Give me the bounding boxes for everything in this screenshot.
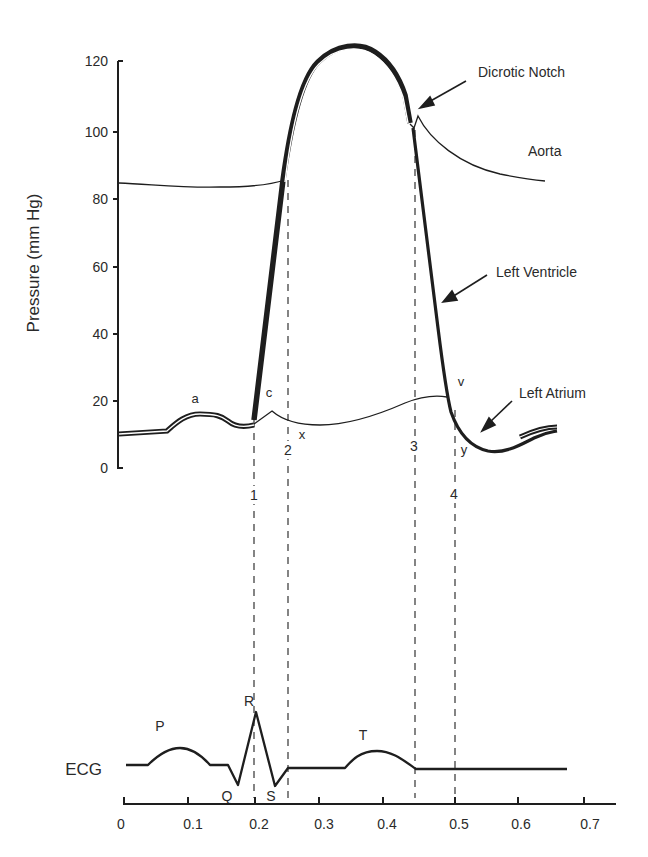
x-tick-labels: 0 0.1 0.2 0.3 0.4 0.5 0.6 0.7 bbox=[117, 816, 600, 832]
y-tick-80: 80 bbox=[92, 191, 108, 207]
aorta-curve-diastole bbox=[410, 116, 545, 181]
ecg-label-r: R bbox=[244, 693, 254, 709]
arrow-left-atrium-icon bbox=[482, 401, 512, 431]
x-axis bbox=[123, 797, 616, 804]
x-tick-0.4: 0.4 bbox=[377, 816, 397, 832]
arrow-left-ventricle-icon bbox=[443, 275, 487, 302]
y-tick-labels: 120 100 80 60 40 20 0 bbox=[85, 53, 109, 476]
left-atrium-curve bbox=[254, 396, 447, 425]
annotation-aorta: Aorta bbox=[528, 143, 562, 159]
aorta-curve-diastole-early bbox=[119, 180, 285, 187]
annotations: Dicrotic Notch Aorta Left Ventricle Left… bbox=[478, 64, 586, 401]
y-tick-60: 60 bbox=[92, 259, 108, 275]
y-tick-0: 0 bbox=[100, 460, 108, 476]
annotation-dicrotic-notch: Dicrotic Notch bbox=[478, 64, 565, 80]
ecg-label-s: S bbox=[266, 788, 275, 804]
x-tick-0: 0 bbox=[117, 816, 125, 832]
marker-label-backgrounds bbox=[247, 437, 462, 504]
wave-label-c: c bbox=[266, 385, 273, 400]
y-tick-20: 20 bbox=[92, 393, 108, 409]
wave-label-x: x bbox=[299, 427, 306, 442]
x-tick-0.6: 0.6 bbox=[511, 816, 531, 832]
arrow-dicrotic-notch-icon bbox=[420, 81, 466, 108]
annotation-left-ventricle: Left Ventricle bbox=[496, 264, 577, 280]
y-tick-100: 100 bbox=[85, 124, 109, 140]
x-tick-0.2: 0.2 bbox=[249, 816, 269, 832]
wave-label-v: v bbox=[458, 374, 465, 389]
ecg-label-p: P bbox=[155, 718, 164, 734]
cardiac-cycle-chart: 120 100 80 60 40 20 0 Pressure (mm Hg) 1… bbox=[0, 0, 648, 857]
lv-relaxation-curve bbox=[413, 128, 557, 452]
y-axis-label: Pressure (mm Hg) bbox=[24, 194, 43, 333]
marker-label-4: 4 bbox=[450, 486, 458, 502]
ecg-trace bbox=[126, 712, 567, 786]
y-tick-40: 40 bbox=[92, 326, 108, 342]
marker-label-3: 3 bbox=[410, 438, 418, 454]
x-tick-0.1: 0.1 bbox=[183, 816, 203, 832]
wave-labels: a c x v y bbox=[191, 374, 467, 457]
ecg-label: ECG bbox=[65, 760, 102, 779]
y-axis bbox=[113, 61, 123, 469]
ecg-label-q: Q bbox=[222, 788, 233, 804]
x-tick-0.5: 0.5 bbox=[449, 816, 469, 832]
wave-label-a: a bbox=[191, 391, 199, 406]
annotation-arrows bbox=[420, 81, 512, 431]
marker-label-2: 2 bbox=[284, 442, 292, 458]
wave-label-y: y bbox=[461, 442, 468, 457]
ecg-label-t: T bbox=[359, 727, 368, 743]
y-tick-120: 120 bbox=[85, 53, 109, 69]
x-tick-0.3: 0.3 bbox=[314, 816, 334, 832]
marker-label-1: 1 bbox=[250, 487, 258, 503]
annotation-left-atrium: Left Atrium bbox=[519, 385, 586, 401]
lv-ejection-curve-outer bbox=[254, 46, 410, 420]
x-tick-0.7: 0.7 bbox=[580, 816, 600, 832]
